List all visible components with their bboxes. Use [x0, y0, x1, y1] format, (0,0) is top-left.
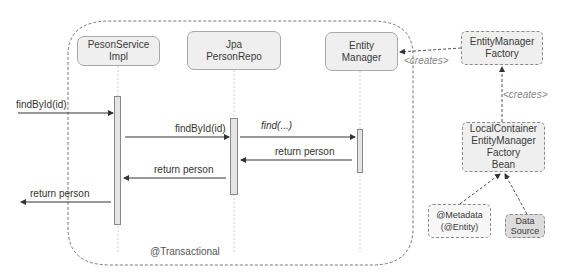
activation-jpa-repo: [230, 118, 238, 195]
node-data-source: DataSource: [505, 214, 545, 238]
message-label: findById(id): [16, 99, 67, 110]
sequence-diagram: PesonServiceImpl JpaPersonRepo EntityMan…: [0, 0, 565, 279]
message-label: return person: [275, 146, 334, 157]
participant-person-service-impl: PesonServiceImpl: [77, 36, 160, 66]
participant-jpa-person-repo: JpaPersonRepo: [187, 31, 281, 70]
node-metadata: @Metadata(@Entity): [428, 204, 491, 238]
participant-entity-manager: EntityManager: [325, 32, 398, 71]
message-label: findById(id): [175, 123, 226, 134]
creates-label: <creates>: [404, 55, 448, 66]
node-entity-manager-factory: EntityManagerFactory: [461, 31, 543, 65]
activation-entity-manager: [357, 129, 363, 173]
node-local-container-emf-bean: LocalContainerEntityManagerFactoryBean: [462, 122, 545, 172]
message-label: return person: [154, 164, 213, 175]
transactional-label: @Transactional: [150, 246, 220, 257]
creates-label: <creates>: [503, 89, 547, 100]
activation-person-service: [114, 96, 121, 225]
message-label: return person: [30, 188, 89, 199]
message-label: find(...): [261, 120, 292, 131]
